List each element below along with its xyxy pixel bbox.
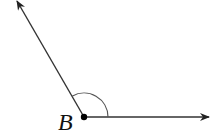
vertex-label: B <box>58 110 73 134</box>
vertex-point <box>81 114 87 120</box>
upper-left-ray <box>17 1 84 117</box>
angle-figure <box>0 0 211 138</box>
angle-diagram: B <box>0 0 211 138</box>
